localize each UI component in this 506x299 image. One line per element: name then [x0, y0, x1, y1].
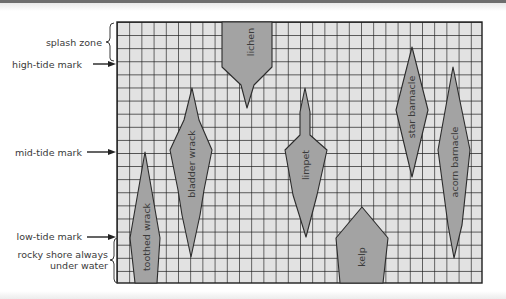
organism-label-acorn-barnacle: acorn barnacle	[449, 126, 460, 197]
organism-label-star-barnacle: star barnacle	[406, 76, 417, 139]
organism-label-kelp: kelp	[356, 247, 367, 267]
organism-label-limpet: limpet	[300, 150, 311, 180]
organism-label-toothed-wrack: toothed wrack	[141, 202, 152, 271]
organism-label-lichen: lichen	[245, 28, 256, 56]
shore-zonation-diagram: lichen toothed wrack bladder wrack limpe…	[0, 0, 506, 299]
low-tide-arrow-icon	[87, 234, 116, 240]
organism-label-bladder-wrack: bladder wrack	[186, 130, 197, 198]
mid-tide-arrow-icon	[87, 149, 116, 155]
splash-zone-brace	[106, 23, 114, 61]
high-tide-arrow-icon	[93, 61, 116, 67]
